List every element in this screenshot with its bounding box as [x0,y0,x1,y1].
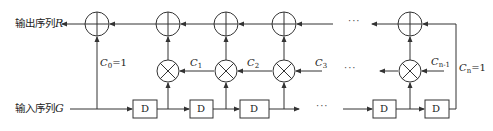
coef-cn-1: Cn-1 [431,57,450,69]
output-label-text: 输出序列 [15,17,55,29]
output-var: R [55,17,63,30]
multiplier-2 [215,60,237,82]
input-label-text: 输入序列 [15,102,55,114]
delay-label-1: D [141,104,149,114]
ellipsis-mid: ··· [344,63,357,73]
input-var: G [55,102,64,115]
input-label: 输入序列G [15,103,64,114]
adder-2 [214,12,238,36]
coef-c2: C2 [247,58,259,70]
coef-c0: C0=1 [100,58,127,70]
adder-1 [156,12,180,36]
ellipsis-top: ··· [348,16,361,26]
delay-label-n-1: D [380,104,388,114]
delay-label-3: D [250,104,258,114]
delay-label-n: D [432,104,440,114]
adder-3 [272,12,296,36]
output-label: 输出序列R [15,18,63,29]
coef-cn: Cn=1 [459,63,486,75]
ellipsis-bottom: ··· [316,101,329,111]
coef-c3: C3 [315,58,327,70]
multiplier-1 [157,60,179,82]
multiplier-n-1 [399,60,421,82]
multiplier-3 [273,60,295,82]
coef-c1: C1 [190,58,202,70]
delay-label-2: D [197,104,205,114]
adder-0 [85,12,109,36]
adder-n [398,12,422,36]
